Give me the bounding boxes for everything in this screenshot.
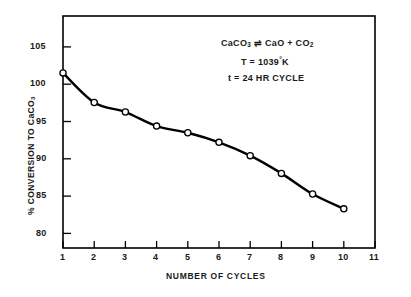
y-tick-label-85: 85 (36, 190, 46, 200)
x-axis-ticks (63, 241, 375, 248)
data-curve (63, 73, 344, 209)
data-point-4 (154, 123, 160, 129)
annotation-temperature-unit: K (282, 57, 289, 67)
y-tick-label-100: 100 (30, 78, 46, 88)
x-tick-label-4: 4 (153, 252, 158, 262)
axes-frame (63, 16, 375, 248)
data-point-9 (310, 191, 316, 197)
data-point-7 (247, 153, 253, 159)
data-point-8 (278, 170, 284, 176)
y-tick-label-90: 90 (36, 153, 46, 163)
x-tick-label-2: 2 (91, 252, 96, 262)
data-point-markers (60, 70, 347, 212)
plot-border (63, 16, 375, 248)
y-tick-label-80: 80 (36, 228, 46, 238)
annotation-reaction-sub2: 2 (310, 41, 314, 48)
x-tick-label-8: 8 (278, 252, 283, 262)
y-axis-title-subscript: 3 (29, 96, 36, 100)
x-tick-label-7: 7 (247, 252, 252, 262)
y-tick-label-95: 95 (36, 116, 46, 126)
data-point-10 (341, 206, 347, 212)
y-axis-title: % CONVERSION TO CaCO3 (26, 96, 36, 215)
data-point-2 (91, 99, 97, 105)
data-point-6 (216, 139, 222, 145)
annotation-reaction-mid: ⇌ CaO + CO (251, 38, 310, 48)
data-point-5 (185, 130, 191, 136)
x-tick-label-10: 10 (338, 252, 348, 262)
x-tick-label-3: 3 (122, 252, 127, 262)
x-axis-title: NUMBER OF CYCLES (166, 271, 266, 281)
y-tick-label-105: 105 (30, 41, 46, 51)
chart-figure: 105 100 95 90 85 80 1 2 3 4 5 6 7 8 9 10… (0, 0, 411, 297)
x-tick-label-5: 5 (185, 252, 190, 262)
x-tick-label-1: 1 (60, 252, 65, 262)
annotation-reaction-prefix: CaCO (221, 38, 247, 48)
data-point-1 (60, 70, 66, 76)
data-point-3 (122, 109, 128, 115)
x-tick-label-9: 9 (310, 252, 315, 262)
annotation-reaction-equation: CaCO3 ⇌ CaO + CO2 (221, 38, 314, 48)
annotation-temperature: T = 1039°K (241, 56, 289, 67)
x-tick-label-6: 6 (216, 252, 221, 262)
y-axis-title-text: % CONVERSION TO CaCO (26, 100, 36, 215)
annotation-cycle-time: t = 24 HR CYCLE (228, 73, 304, 83)
annotation-temperature-prefix: T = 1039 (241, 57, 279, 67)
x-tick-label-11: 11 (369, 252, 379, 262)
